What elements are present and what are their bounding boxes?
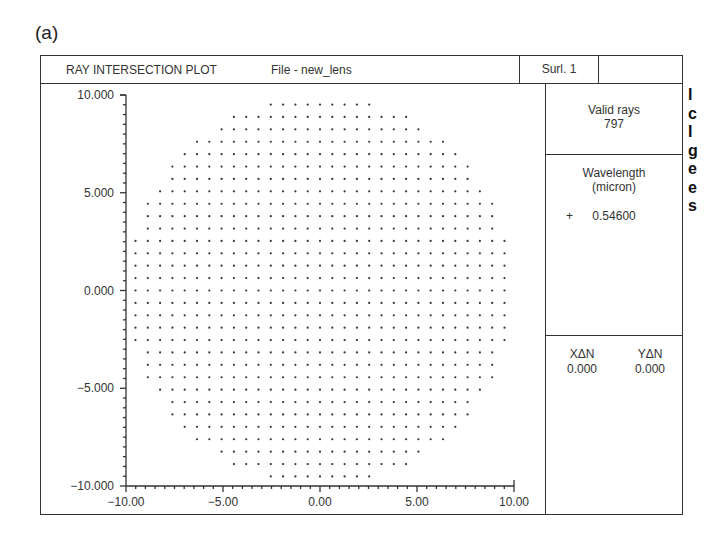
svg-text:0.000: 0.000: [84, 284, 114, 298]
svg-text:−5.000: −5.000: [77, 381, 114, 395]
svg-text:−5.00: −5.00: [208, 495, 239, 509]
ray-plot: −10.00−5.000.005.0010.0010.0005.0000.000…: [0, 0, 721, 541]
tick-labels: −10.00−5.000.005.0010.0010.0005.0000.000…: [70, 88, 529, 509]
ray-dots: [134, 103, 505, 477]
svg-text:−10.00: −10.00: [107, 495, 144, 509]
svg-text:−10.000: −10.000: [70, 479, 114, 493]
svg-text:10.000: 10.000: [77, 88, 114, 102]
svg-text:0.00: 0.00: [308, 495, 332, 509]
svg-text:5.000: 5.000: [84, 186, 114, 200]
svg-text:10.00: 10.00: [499, 495, 529, 509]
svg-text:5.00: 5.00: [405, 495, 429, 509]
cropped-text-fragment: IcIgees: [688, 86, 698, 216]
